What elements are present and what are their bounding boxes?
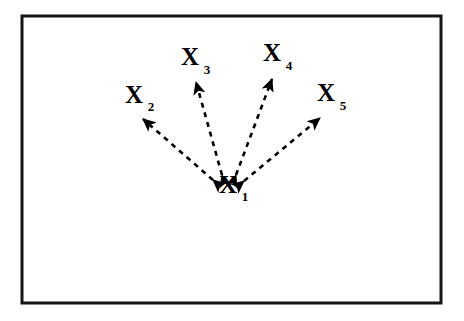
- node-x4-subscript: 4: [286, 58, 293, 73]
- node-x1-symbol: X: [219, 171, 237, 198]
- node-x3-subscript: 3: [204, 62, 211, 77]
- star-topology-diagram: X 1 X 2 X 3 X 4 X 5: [0, 0, 464, 321]
- node-x5-subscript: 5: [340, 98, 347, 113]
- node-x4-symbol: X: [263, 39, 281, 66]
- figure-canvas: X 1 X 2 X 3 X 4 X 5: [0, 0, 464, 321]
- node-x5-symbol: X: [317, 79, 335, 106]
- node-x3-symbol: X: [181, 43, 199, 70]
- node-x1-subscript: 1: [242, 189, 249, 204]
- figure-border: [22, 16, 441, 303]
- node-x2-subscript: 2: [148, 99, 155, 114]
- node-x2-symbol: X: [125, 81, 143, 108]
